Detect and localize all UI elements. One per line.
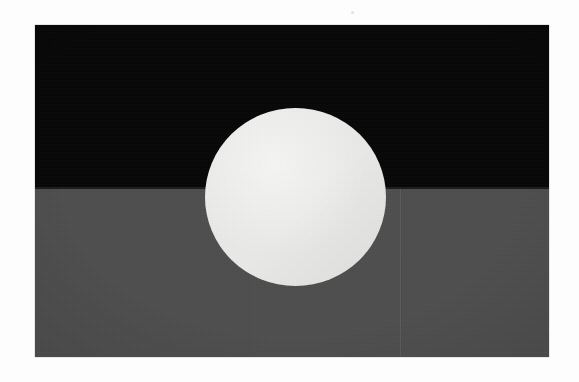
vertical-crease (400, 189, 402, 357)
image-canvas: Photograph of a two-band flag with a lar… (0, 0, 579, 382)
central-disc (205, 108, 386, 286)
flag-image (35, 25, 549, 357)
disc-shading (205, 108, 386, 286)
scan-speck (351, 11, 354, 14)
